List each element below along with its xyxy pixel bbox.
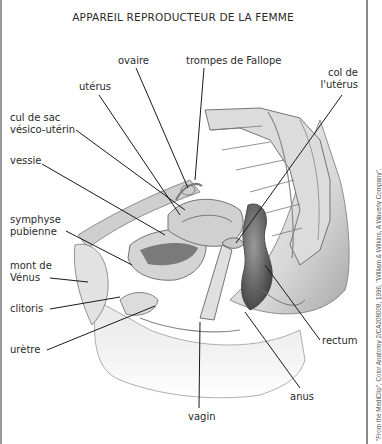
label-trompes-de-fallope: trompes de Fallope	[186, 55, 281, 67]
label-symphyse-line1: symphyse	[10, 214, 61, 226]
label-vessie: vessie	[10, 155, 41, 167]
label-ovaire: ovaire	[118, 55, 149, 67]
label-rectum: rectum	[322, 335, 358, 347]
label-uretre: urètre	[10, 344, 40, 356]
label-col-line2: l'utérus	[318, 79, 358, 91]
label-symphyse-pubienne: symphyse pubienne	[10, 214, 61, 238]
label-clitoris: clitoris	[10, 303, 43, 315]
label-mont-line2: Vénus	[10, 272, 52, 284]
credit-text: "From the MediClip", Color Anatomy 2/CA2…	[375, 168, 382, 441]
label-anus: anus	[290, 391, 314, 403]
diagram-frame: APPAREIL REPRODUCTEUR DE LA FEMME	[0, 0, 382, 444]
label-col-de-uterus: col de l'utérus	[318, 67, 358, 91]
label-symphyse-line2: pubienne	[10, 226, 61, 238]
label-col-line1: col de	[318, 67, 358, 79]
label-mont-de-venus: mont de Vénus	[10, 260, 52, 284]
perineum	[140, 318, 240, 332]
label-culdesac-line2: vésico-utérin	[10, 124, 75, 136]
clitoris-region	[120, 293, 158, 316]
label-vagin: vagin	[188, 411, 216, 423]
label-cul-de-sac-vesico-uterin: cul de sac vésico-utérin	[10, 112, 75, 136]
label-uterus: utérus	[79, 81, 111, 93]
label-mont-line1: mont de	[10, 260, 52, 272]
label-culdesac-line1: cul de sac	[10, 112, 75, 124]
